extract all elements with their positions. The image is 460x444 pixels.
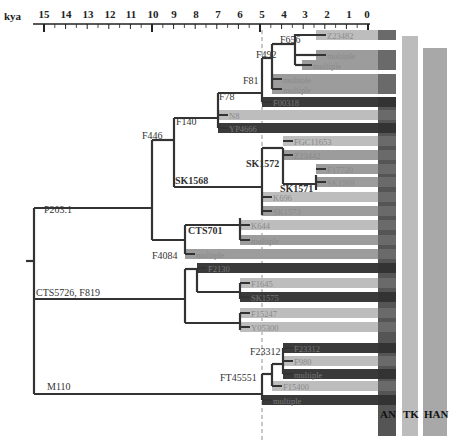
leaf-label: F2130: [208, 264, 230, 274]
leaf-label: multiple: [283, 85, 312, 95]
node-label: F446: [142, 130, 163, 141]
tick-label: 0: [364, 8, 370, 20]
an-cell: [378, 292, 396, 302]
an-cell: [378, 97, 396, 107]
an-cell: [378, 249, 396, 259]
an-cell: [378, 164, 396, 174]
leaf-label: multiple: [251, 236, 280, 246]
axis-unit-label: kya: [4, 10, 22, 22]
tick-label: 9: [171, 8, 177, 20]
an-cell: [378, 74, 396, 84]
tick-label: 2: [324, 8, 330, 20]
an-cell: [378, 110, 396, 120]
an-cell: [378, 177, 396, 187]
leaf-label: F1645: [251, 279, 273, 289]
leaf-label: N8: [229, 111, 239, 121]
leaf-label: F15247: [251, 309, 277, 319]
leaf-bar: [218, 110, 378, 120]
node-label: SK1572: [246, 158, 279, 169]
time-axis: kya 15 14 13 12 11 10 9 8 7 6 5 4 3 2 1 …: [4, 8, 370, 32]
leaf-label: YP4666: [229, 124, 257, 134]
leaf-label: SK1573: [273, 207, 301, 217]
an-cell: [378, 369, 396, 379]
phylogenetic-tree-figure: kya 15 14 13 12 11 10 9 8 7 6 5 4 3 2 1 …: [0, 0, 460, 444]
tick-label: 14: [61, 8, 73, 20]
node-label: M110: [47, 381, 71, 392]
node-label: FT45551: [220, 372, 257, 383]
tick-label: 4: [281, 8, 287, 20]
leaf-label: Z23442: [294, 151, 320, 161]
tick-label: 11: [126, 8, 136, 20]
an-cell: [378, 263, 396, 273]
leaf-label: FGC11653: [294, 137, 331, 147]
an-cell: [378, 60, 396, 70]
an-cell: [378, 150, 396, 160]
node-label: F140: [176, 116, 197, 127]
column-label-tk: TK: [403, 408, 419, 420]
node-label: CTS701: [188, 225, 222, 236]
an-cell: [378, 395, 396, 405]
node-label: F492: [256, 49, 277, 60]
an-cell: [378, 343, 396, 353]
leaf-label: F980: [294, 357, 311, 367]
leaf-label: multiple: [327, 51, 356, 61]
an-cell: [378, 84, 396, 94]
an-cell: [378, 220, 396, 230]
tick-label: 8: [193, 8, 199, 20]
an-cell: [378, 206, 396, 216]
tick-label: 12: [105, 8, 117, 20]
leaf-label: F23312: [294, 344, 320, 354]
node-label: P203.1: [44, 204, 72, 215]
an-cell: [378, 123, 396, 133]
column-han-bg: [423, 48, 447, 436]
tick-label: 6: [237, 8, 243, 20]
leaf-label: K696: [273, 193, 292, 203]
leaf-label: F17720: [327, 165, 353, 175]
tick-label: 3: [302, 8, 308, 20]
node-label: F656: [280, 34, 301, 45]
leaf-label: multiple: [283, 75, 312, 85]
node-label: F81: [243, 75, 259, 86]
node-label: F4084: [152, 250, 178, 261]
an-cell: [378, 278, 396, 288]
column-tk-bg: [402, 36, 418, 436]
an-cell: [378, 50, 396, 60]
tick-label: 7: [215, 8, 221, 20]
leaf-label: Y05300: [251, 323, 278, 333]
tick-label: 5: [259, 8, 265, 20]
node-label: SK1568: [175, 175, 208, 186]
leaf-label: Z23482: [327, 31, 353, 41]
leaf-label: F00318: [273, 98, 299, 108]
leaf-label: K644: [251, 221, 271, 231]
tick-label: 1: [346, 8, 352, 20]
an-cell: [378, 235, 396, 245]
leaf-label: SK1569: [327, 178, 355, 188]
tick-label: 13: [83, 8, 95, 20]
leaf-bars: Z23482multiplemultiplemultiplemultipleF0…: [185, 30, 396, 406]
an-cell: [378, 356, 396, 366]
node-label: CTS5726, F819: [36, 287, 100, 298]
an-cell: [378, 192, 396, 202]
leaf-label: multiple: [196, 250, 225, 260]
leaf-label: multiple: [294, 370, 323, 380]
column-label-han: HAN: [424, 408, 449, 420]
an-cell: [378, 30, 396, 40]
node-label: F78: [219, 91, 235, 102]
leaf-label: multiple: [313, 61, 342, 71]
an-cell: [378, 308, 396, 318]
column-label-an: AN: [380, 408, 396, 420]
leaf-label: F15400: [283, 382, 309, 392]
leaf-label: multiple: [273, 396, 302, 406]
an-cell: [378, 136, 396, 146]
leaf-label: SK1575: [251, 293, 279, 303]
node-label: SK1571: [280, 183, 313, 194]
an-cell: [378, 381, 396, 391]
an-cell: [378, 322, 396, 332]
tick-label: 10: [148, 8, 160, 20]
node-label: F23312: [250, 346, 281, 357]
tick-label: 15: [39, 8, 51, 20]
